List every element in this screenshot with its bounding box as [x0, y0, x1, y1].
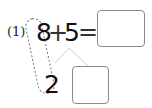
branch-line-right — [69, 48, 88, 66]
branch-line-left — [55, 48, 69, 63]
problem-number-label: (1) — [7, 24, 25, 39]
decomposition-left-part: 2 — [44, 72, 60, 97]
answer-box[interactable] — [97, 10, 145, 47]
decomposition-right-box[interactable] — [72, 66, 109, 104]
equals-sign: = — [78, 18, 98, 46]
